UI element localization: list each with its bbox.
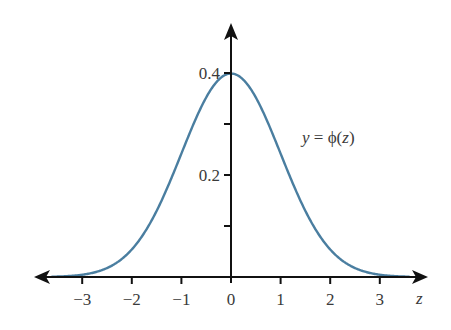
x-tick-label: −3 [73, 290, 91, 309]
x-tick-label: 1 [276, 290, 285, 309]
labels: −3−2−101230.20.4 [73, 64, 384, 309]
x-tick-label: −1 [172, 290, 190, 309]
annotation-lhs: y [300, 128, 310, 147]
x-tick-label: 3 [376, 290, 385, 309]
curve-annotation: y = ϕ(z) [300, 128, 355, 147]
normal-distribution-chart: −3−2−101230.20.4 z y = ϕ(z) [0, 0, 451, 330]
annotation-eq: = [310, 128, 328, 147]
x-tick-label: 0 [227, 290, 236, 309]
x-tick-label: 2 [326, 290, 335, 309]
annotation-fn: ϕ [328, 128, 337, 147]
y-tick-label: 0.4 [199, 64, 221, 83]
annotation-close: ) [349, 128, 355, 147]
y-tick-label: 0.2 [199, 166, 220, 185]
axes [34, 23, 428, 284]
x-tick-label: −2 [123, 290, 141, 309]
x-axis-label: z [415, 289, 423, 308]
